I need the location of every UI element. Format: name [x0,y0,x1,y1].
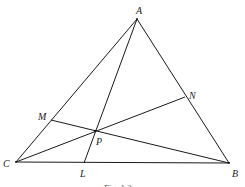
point-C-dot [15,161,17,163]
cevian-BM [51,120,229,163]
label-L: L [79,168,86,179]
figure-caption: Fig. 1.2 [104,183,132,187]
side-AC [16,19,137,162]
cevian-CN [16,97,185,162]
label-A: A [135,5,143,16]
side-BC [16,162,229,163]
point-A-dot [136,18,138,20]
triangle-diagram: A B C L M N P Fig. 1.2 [0,0,245,187]
label-M: M [37,111,47,122]
label-C: C [3,158,10,169]
label-B: B [232,168,238,179]
label-N: N [188,90,197,101]
label-P: P [95,136,102,147]
point-B-dot [228,162,230,164]
point-P-dot [94,130,96,132]
side-AB [137,19,229,163]
cevian-AL [84,19,137,163]
